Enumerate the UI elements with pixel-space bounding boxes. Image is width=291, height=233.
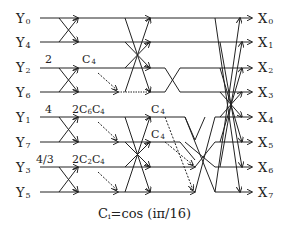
- input-label-y3: Y3: [15, 160, 31, 175]
- output-label-x6: X6: [258, 160, 273, 175]
- final-stage: [205, 18, 252, 192]
- scale-y2: 2: [45, 53, 52, 66]
- input-label-y7: Y7: [15, 135, 31, 150]
- output-label-x1: X1: [258, 35, 273, 50]
- output-label-x4: X4: [258, 110, 273, 125]
- input-label-y6: Y6: [15, 85, 31, 100]
- stage3-butterflies: [150, 18, 240, 192]
- input-label-y4: Y4: [15, 35, 31, 50]
- input-label-y5: Y5: [15, 185, 31, 200]
- scale-y3: 4/3: [36, 153, 54, 166]
- output-label-x5: X5: [258, 135, 273, 150]
- output-label-x0: X0: [258, 11, 273, 26]
- input-label-y0: Y0: [15, 11, 31, 26]
- idct-flow-diagram: Y0 Y4 Y2 Y6 Y1 Y7 Y3 Y5 X0 X1 X2 X3 X4 X…: [0, 0, 291, 233]
- mult-y3: 2C2C4: [72, 153, 105, 166]
- mult-y2: C4: [82, 53, 96, 66]
- coefficient-labels: 2 C4 4 2C6C4 4/3 2C2C4 C4 C4: [36, 53, 165, 166]
- input-label-y2: Y2: [15, 60, 31, 75]
- scale-y1: 4: [45, 103, 52, 116]
- output-labels: X0 X1 X2 X3 X4 X5 X6 X7: [258, 11, 273, 200]
- output-label-x3: X3: [258, 85, 273, 100]
- caption-formula: Ci=cos (iπ/16): [98, 206, 191, 221]
- mult-stage3-b: C4: [151, 128, 165, 141]
- output-label-x7: X7: [258, 185, 273, 200]
- mult-y1: 2C6C4: [72, 103, 105, 116]
- input-labels: Y0 Y4 Y2 Y6 Y1 Y7 Y3 Y5: [15, 11, 31, 200]
- mult-stage3-a: C4: [151, 103, 165, 116]
- output-label-x2: X2: [258, 60, 273, 75]
- butterfly-graph: Y0 Y4 Y2 Y6 Y1 Y7 Y3 Y5 X0 X1 X2 X3 X4 X…: [0, 0, 291, 233]
- input-label-y1: Y1: [15, 110, 31, 125]
